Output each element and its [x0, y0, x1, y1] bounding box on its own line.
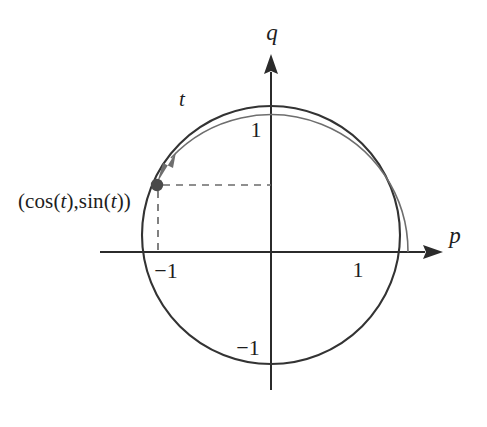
parameter-arc-arrow [157, 115, 408, 252]
p-axis-arrowhead [423, 245, 443, 259]
cos-sin-point-label: (cos(t),sin(t)) [18, 189, 131, 214]
coord-cos-text: cos( [25, 189, 60, 213]
parameter-t-label: t [179, 87, 186, 111]
x-tick-positive-one: 1 [353, 257, 364, 282]
y-tick-positive-one: 1 [251, 117, 262, 142]
x-tick-negative-one: −1 [154, 258, 177, 283]
cos-sin-point-dot [151, 179, 163, 191]
q-axis-label: q [266, 20, 278, 45]
coord-close-paren: )) [117, 189, 131, 213]
parameter-arc-path [171, 115, 408, 252]
figure-canvas: q p t −1 1 1 −1 (cos(t),sin(t)) [0, 0, 487, 427]
coord-mid-text: ),sin( [66, 189, 110, 213]
dashed-guides [158, 185, 271, 250]
q-axis-arrowhead [264, 54, 278, 74]
p-axis-label: p [447, 223, 461, 248]
y-tick-negative-one: −1 [236, 335, 259, 360]
q-axis [264, 54, 278, 390]
